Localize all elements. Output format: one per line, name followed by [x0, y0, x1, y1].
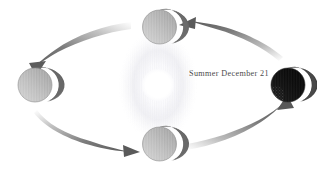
season-label-summer: Summer December 21: [189, 70, 269, 78]
sun-core: [142, 69, 174, 101]
sun-group: [118, 29, 198, 142]
diagram-canvas: [0, 0, 317, 172]
earth-top: [143, 9, 190, 44]
earth-left: [18, 67, 65, 102]
earth-right: [269, 67, 318, 104]
orbit-diagram: Summer December 21: [0, 0, 317, 172]
arrow-bottom-right: [186, 95, 294, 150]
arrow-top-left: [29, 22, 131, 76]
